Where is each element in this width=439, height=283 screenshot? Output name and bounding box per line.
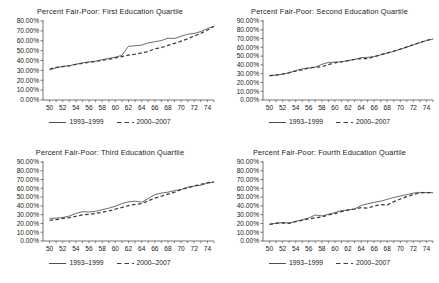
svg-text:30.00%: 30.00%	[237, 70, 260, 77]
chart-legend: 1993–1999 2000–2007	[0, 257, 220, 267]
svg-text:66: 66	[151, 245, 159, 252]
svg-text:52: 52	[59, 245, 67, 252]
chart-panel-fourth-quartile: Percent Fair-Poor: Fourth Education Quar…	[220, 141, 439, 283]
dashed-line-icon	[117, 120, 134, 125]
svg-text:62: 62	[344, 245, 352, 252]
legend-item-series2: 2000–2007	[336, 259, 390, 267]
svg-text:74: 74	[423, 104, 431, 111]
svg-text:40.00%: 40.00%	[237, 61, 260, 68]
svg-text:60.00%: 60.00%	[237, 44, 260, 51]
svg-text:50: 50	[266, 104, 274, 111]
svg-text:74: 74	[204, 245, 212, 252]
svg-text:64: 64	[357, 245, 365, 252]
chart-panel-second-quartile: Percent Fair-Poor: Second Education Quar…	[220, 0, 439, 141]
chart-panel-third-quartile: Percent Fair-Poor: Third Education Quart…	[0, 141, 220, 283]
svg-text:66: 66	[370, 104, 378, 111]
svg-text:70.00%: 70.00%	[237, 35, 260, 42]
svg-text:60.00%: 60.00%	[17, 37, 40, 44]
svg-text:54: 54	[292, 104, 300, 111]
svg-text:70: 70	[177, 104, 185, 111]
svg-text:68: 68	[384, 245, 392, 252]
legend-item-series1: 1993–1999	[49, 259, 103, 267]
plot-area: 0.00%10.00%20.00%30.00%40.00%50.00%60.00…	[0, 157, 220, 257]
svg-text:54: 54	[72, 245, 80, 252]
legend-item-series2: 2000–2007	[117, 259, 171, 267]
svg-text:64: 64	[138, 104, 146, 111]
legend-label-series2: 2000–2007	[356, 259, 390, 267]
svg-text:52: 52	[279, 104, 287, 111]
chart-title: Percent Fair-Poor: First Education Quart…	[0, 0, 220, 16]
solid-line-icon	[269, 120, 286, 125]
line-plot-svg: 0.00%10.00%20.00%30.00%40.00%50.00%60.00…	[220, 16, 439, 116]
line-plot-svg: 0.00%10.00%20.00%30.00%40.00%50.00%60.00…	[220, 157, 439, 257]
svg-text:50: 50	[46, 104, 54, 111]
svg-text:54: 54	[292, 245, 300, 252]
chart-legend: 1993–1999 2000–2007	[220, 257, 439, 267]
svg-text:58: 58	[99, 104, 107, 111]
svg-text:64: 64	[138, 245, 146, 252]
chart-legend: 1993–1999 2000–2007	[220, 116, 439, 126]
plot-area: 0.00%10.00%20.00%30.00%40.00%50.00%60.00…	[0, 16, 220, 116]
svg-text:70.00%: 70.00%	[237, 176, 260, 183]
svg-text:62: 62	[344, 104, 352, 111]
svg-text:80.00%: 80.00%	[237, 26, 260, 33]
plot-area: 0.00%10.00%20.00%30.00%40.00%50.00%60.00…	[220, 16, 439, 116]
svg-text:68: 68	[164, 104, 172, 111]
svg-text:70: 70	[397, 104, 405, 111]
legend-label-series2: 2000–2007	[137, 118, 171, 126]
svg-text:74: 74	[423, 245, 431, 252]
svg-text:60.00%: 60.00%	[17, 185, 40, 192]
svg-text:70.00%: 70.00%	[17, 176, 40, 183]
svg-text:30.00%: 30.00%	[17, 211, 40, 218]
svg-text:70: 70	[177, 245, 185, 252]
svg-text:68: 68	[164, 245, 172, 252]
solid-line-icon	[269, 261, 286, 266]
svg-text:74: 74	[204, 104, 212, 111]
svg-text:60: 60	[112, 104, 120, 111]
svg-text:68: 68	[384, 104, 392, 111]
solid-line-icon	[49, 120, 66, 125]
svg-text:60: 60	[331, 104, 339, 111]
svg-text:0.00%: 0.00%	[20, 237, 39, 244]
svg-text:62: 62	[125, 245, 133, 252]
svg-text:20.00%: 20.00%	[17, 77, 40, 84]
svg-text:10.00%: 10.00%	[237, 229, 260, 236]
svg-text:56: 56	[305, 104, 313, 111]
svg-text:60.00%: 60.00%	[237, 185, 260, 192]
chart-legend: 1993–1999 2000–2007	[0, 116, 220, 126]
chart-title: Percent Fair-Poor: Fourth Education Quar…	[220, 141, 439, 157]
multi-panel-chart-figure: Percent Fair-Poor: First Education Quart…	[0, 0, 439, 283]
svg-text:60: 60	[331, 245, 339, 252]
legend-item-series2: 2000–2007	[336, 118, 390, 126]
svg-text:20.00%: 20.00%	[237, 79, 260, 86]
svg-text:62: 62	[125, 104, 133, 111]
svg-text:60: 60	[112, 245, 120, 252]
legend-item-series2: 2000–2007	[117, 118, 171, 126]
svg-text:50: 50	[46, 245, 54, 252]
svg-text:58: 58	[318, 245, 326, 252]
dashed-line-icon	[336, 261, 353, 266]
svg-text:66: 66	[370, 245, 378, 252]
svg-text:40.00%: 40.00%	[17, 202, 40, 209]
svg-text:50.00%: 50.00%	[17, 47, 40, 54]
svg-text:64: 64	[357, 104, 365, 111]
svg-text:90.00%: 90.00%	[237, 17, 260, 24]
svg-text:54: 54	[72, 104, 80, 111]
svg-text:30.00%: 30.00%	[17, 67, 40, 74]
legend-item-series1: 1993–1999	[269, 259, 323, 267]
svg-text:50: 50	[266, 245, 274, 252]
legend-label-series2: 2000–2007	[137, 259, 171, 267]
legend-label-series1: 1993–1999	[69, 259, 103, 267]
svg-text:20.00%: 20.00%	[237, 220, 260, 227]
svg-text:50.00%: 50.00%	[237, 193, 260, 200]
plot-area: 0.00%10.00%20.00%30.00%40.00%50.00%60.00…	[220, 157, 439, 257]
svg-text:80.00%: 80.00%	[17, 17, 40, 24]
line-plot-svg: 0.00%10.00%20.00%30.00%40.00%50.00%60.00…	[0, 157, 220, 257]
svg-text:66: 66	[151, 104, 159, 111]
legend-item-series1: 1993–1999	[49, 118, 103, 126]
legend-item-series1: 1993–1999	[269, 118, 323, 126]
legend-label-series2: 2000–2007	[356, 118, 390, 126]
dashed-line-icon	[117, 261, 134, 266]
svg-text:58: 58	[318, 104, 326, 111]
svg-text:56: 56	[305, 245, 313, 252]
